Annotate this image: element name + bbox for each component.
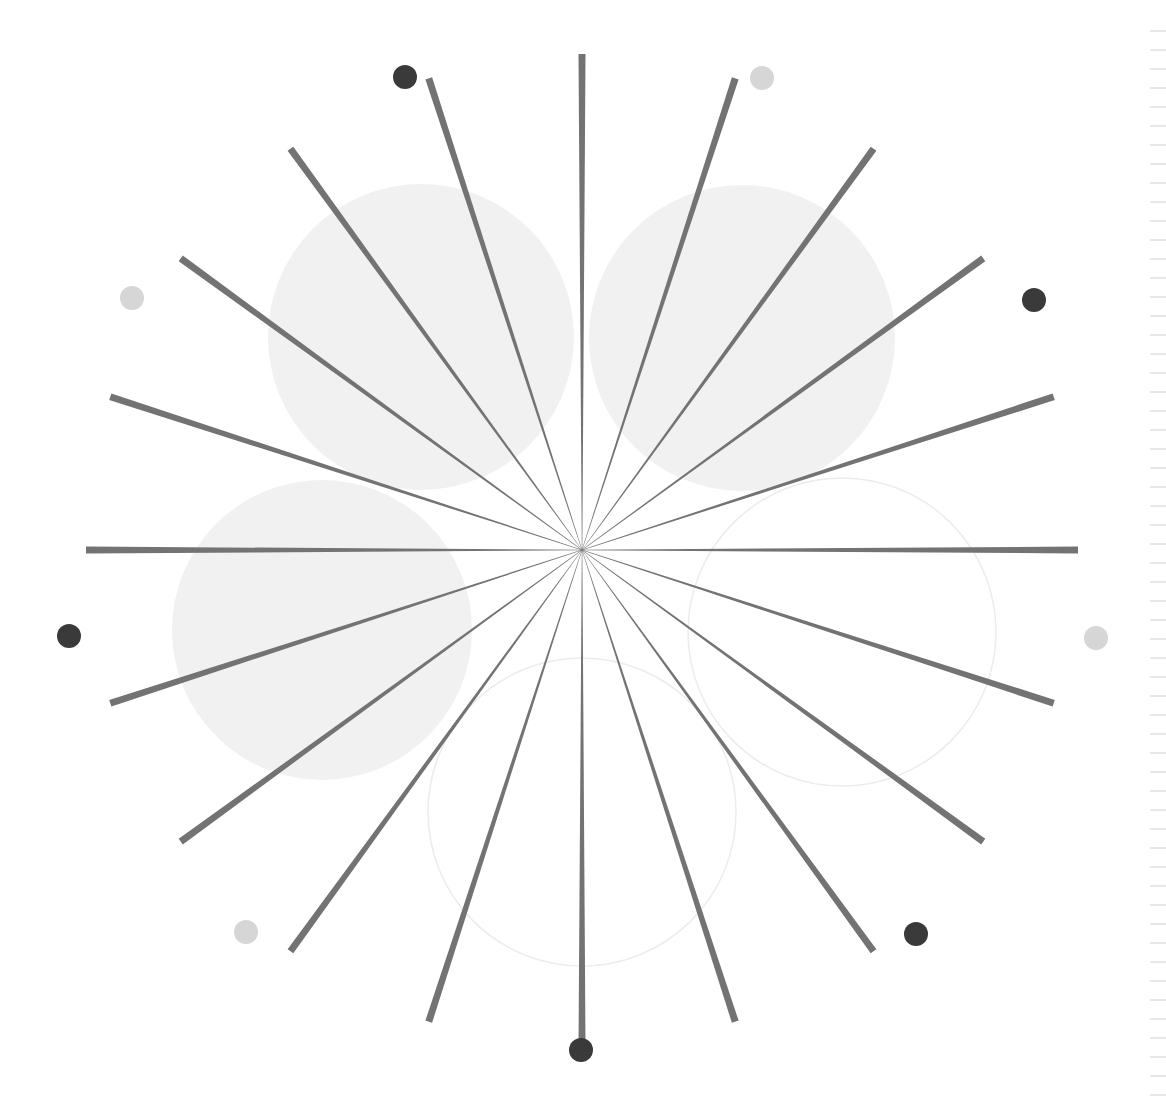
ray-7	[582, 550, 985, 845]
circle-top-left	[268, 184, 574, 490]
dot-lower-left	[234, 920, 258, 944]
ray-5	[582, 547, 1078, 554]
radial-rays	[86, 54, 1078, 1046]
dot-top-left	[393, 65, 417, 89]
dot-bottom	[569, 1038, 593, 1062]
ray-10	[579, 550, 586, 1046]
dot-lower-right	[904, 922, 928, 946]
dot-left	[57, 624, 81, 648]
dot-upper-left	[120, 286, 144, 310]
ray-8	[582, 550, 877, 953]
ray-9	[582, 550, 739, 1023]
dot-right	[1084, 626, 1108, 650]
edge-ruler	[1144, 0, 1166, 1106]
circle-top-right	[589, 185, 895, 491]
dot-top-right	[750, 66, 774, 90]
dot-upper-right	[1022, 288, 1046, 312]
circle-left	[172, 480, 472, 780]
ray-0	[579, 54, 586, 550]
starburst-diagram	[0, 0, 1166, 1106]
